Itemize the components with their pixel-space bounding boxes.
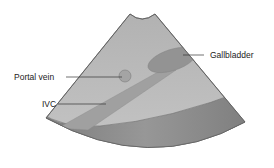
portal-vein-label: Portal vein [14, 72, 54, 82]
ultrasound-diagram: Gallbladder Portal vein IVC [0, 0, 274, 168]
gallbladder-label: Gallbladder [210, 50, 254, 60]
ivc-label: IVC [42, 99, 56, 109]
scan-sector [30, 14, 260, 168]
portal-vein-shape [119, 70, 131, 82]
